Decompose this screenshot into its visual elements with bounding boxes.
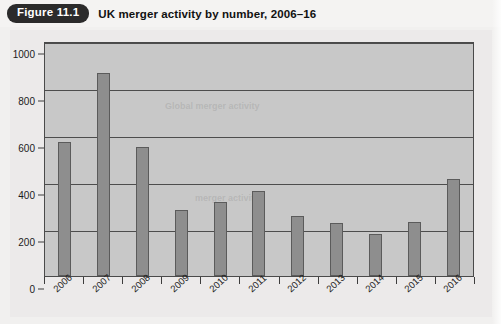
y-axis-tick-label: 600 — [18, 143, 35, 154]
y-axis-tick-label: 800 — [18, 96, 35, 107]
bar-slot — [317, 43, 356, 276]
bar-slot — [123, 43, 162, 276]
y-axis-tick-label: 0 — [29, 284, 35, 295]
bar-slot — [45, 43, 84, 276]
bar[interactable] — [369, 234, 382, 276]
bar[interactable] — [97, 73, 110, 276]
bar[interactable] — [214, 202, 227, 276]
bar[interactable] — [136, 147, 149, 276]
x-axis-tick-mark — [474, 277, 475, 284]
x-label-slot: 2009 — [161, 282, 200, 316]
bar-slot — [201, 43, 240, 276]
x-label-slot: 2015 — [396, 282, 435, 316]
x-label-slot: 2016 — [435, 282, 474, 316]
x-label-slot: 2008 — [122, 282, 161, 316]
y-axis: 02004006008001000 — [10, 42, 44, 278]
plot-wrapper: Global merger activity merger activity — [44, 42, 474, 277]
x-label-slot: 2006 — [44, 282, 83, 316]
bar[interactable] — [330, 223, 343, 276]
bar-slot — [240, 43, 279, 276]
figure-number-badge: Figure 11.1 — [7, 4, 89, 23]
y-axis-tick-label: 200 — [18, 237, 35, 248]
x-axis-labels: 2006200720082009201020112012201320142015… — [44, 282, 474, 316]
bar-slot — [434, 43, 473, 276]
bar[interactable] — [58, 142, 71, 276]
figure-caption: Figure 11.1 UK merger activity by number… — [0, 0, 501, 27]
bar-slot — [395, 43, 434, 276]
figure-title: UK merger activity by number, 2006–16 — [98, 8, 316, 20]
bar[interactable] — [175, 210, 188, 276]
x-label-slot: 2007 — [83, 282, 122, 316]
bar-slot — [278, 43, 317, 276]
x-label-slot: 2014 — [357, 282, 396, 316]
bar-slot — [162, 43, 201, 276]
y-axis-tick-label: 400 — [18, 190, 35, 201]
chart-container: 02004006008001000 Global merger activity… — [10, 30, 492, 317]
y-axis-tick-label: 1000 — [13, 49, 35, 60]
figure-page: Figure 11.1 UK merger activity by number… — [0, 0, 501, 324]
plot-area: Global merger activity merger activity — [44, 42, 474, 277]
bar[interactable] — [291, 216, 304, 276]
scan-edge — [492, 0, 501, 324]
bar-slot — [356, 43, 395, 276]
bar[interactable] — [408, 222, 421, 276]
bar-slot — [84, 43, 123, 276]
x-label-slot: 2010 — [200, 282, 239, 316]
x-label-slot: 2011 — [239, 282, 278, 316]
bar[interactable] — [252, 191, 265, 276]
bar[interactable] — [447, 179, 460, 276]
x-label-slot: 2013 — [318, 282, 357, 316]
x-label-slot: 2012 — [279, 282, 318, 316]
bar-series — [45, 43, 473, 276]
